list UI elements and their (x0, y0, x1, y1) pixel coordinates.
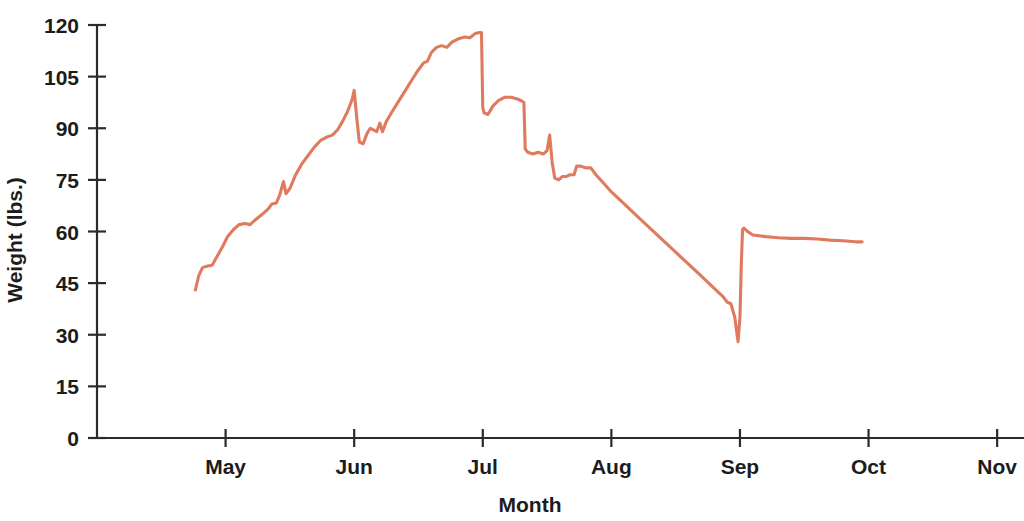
y-tick-label: 0 (67, 427, 79, 450)
y-tick-label: 60 (56, 221, 79, 244)
y-axis-title: Weight (lbs.) (3, 177, 26, 303)
x-tick-label: Jul (468, 455, 498, 478)
weight-line-chart: 0153045607590105120 MayJunJulAugSepOctNo… (0, 0, 1024, 521)
x-tick-label: Aug (591, 455, 632, 478)
y-tick-label: 105 (44, 66, 79, 89)
weight-series-line (195, 33, 862, 342)
y-tick-label: 45 (56, 272, 80, 295)
x-tick-label: Nov (977, 455, 1017, 478)
y-tick-label: 90 (56, 117, 79, 140)
chart-canvas: 0153045607590105120 MayJunJulAugSepOctNo… (0, 0, 1024, 521)
x-tick-label: Oct (851, 455, 886, 478)
y-tick-label: 120 (44, 14, 79, 37)
y-tick-label: 30 (56, 324, 79, 347)
x-tick-group: MayJunJulAugSepOctNov (205, 429, 1017, 478)
y-tick-label: 15 (56, 375, 80, 398)
y-axis-group: 0153045607590105120 (44, 14, 106, 450)
x-axis-group: MayJunJulAugSepOctNov (97, 429, 1024, 478)
series-group (195, 33, 862, 342)
x-tick-label: May (205, 455, 246, 478)
x-tick-label: Jun (336, 455, 373, 478)
x-axis-title: Month (499, 493, 562, 516)
y-tick-label: 75 (56, 169, 80, 192)
x-tick-label: Sep (721, 455, 760, 478)
